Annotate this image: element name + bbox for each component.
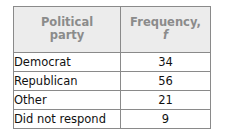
cell-frequency-other: 21 [121, 91, 211, 110]
table-row: Other 21 [14, 91, 211, 110]
cell-party-other: Other [14, 91, 121, 110]
table-header: Political party Frequency, f [14, 7, 211, 53]
cell-party-democrat: Democrat [14, 53, 121, 72]
table-row: Did not respond 9 [14, 110, 211, 129]
cell-party-did-not-respond: Did not respond [14, 110, 121, 129]
frequency-distribution-table: Political party Frequency, f Democrat 34… [13, 6, 211, 129]
cell-party-republican: Republican [14, 72, 121, 91]
table-row: Republican 56 [14, 72, 211, 91]
cell-frequency-republican: 56 [121, 72, 211, 91]
table-body: Democrat 34 Republican 56 Other 21 Did n… [14, 53, 211, 129]
cell-frequency-democrat: 34 [121, 53, 211, 72]
cell-frequency-did-not-respond: 9 [121, 110, 211, 129]
column-header-political-party-line2: party [16, 29, 118, 42]
column-header-political-party: Political party [14, 7, 121, 53]
table-row: Democrat 34 [14, 53, 211, 72]
column-header-frequency: Frequency, f [121, 7, 211, 53]
page-canvas: Political party Frequency, f Democrat 34… [0, 0, 225, 131]
table-header-row: Political party Frequency, f [14, 7, 211, 53]
column-header-frequency-symbol: f [123, 29, 208, 42]
